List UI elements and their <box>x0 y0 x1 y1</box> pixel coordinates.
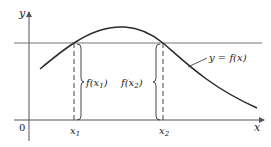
y-axis-label: y <box>18 7 26 20</box>
x1-tick-label: x1 <box>70 125 80 138</box>
function-graph: y x 0 y = f(x) f(x1) x1 f(x2) x2 <box>0 0 271 147</box>
curve-label: y = f(x) <box>208 52 247 63</box>
origin-label: 0 <box>19 122 25 133</box>
f-x1-label: f(x1) <box>85 77 108 90</box>
x1-brace <box>77 44 84 120</box>
x2-tick-label: x2 <box>159 125 170 138</box>
x2-brace <box>153 44 160 120</box>
function-curve <box>40 27 257 108</box>
f-x2-label: f(x2) <box>120 77 143 90</box>
curve-label-leader <box>188 58 207 67</box>
x-axis-label: x <box>254 121 261 134</box>
